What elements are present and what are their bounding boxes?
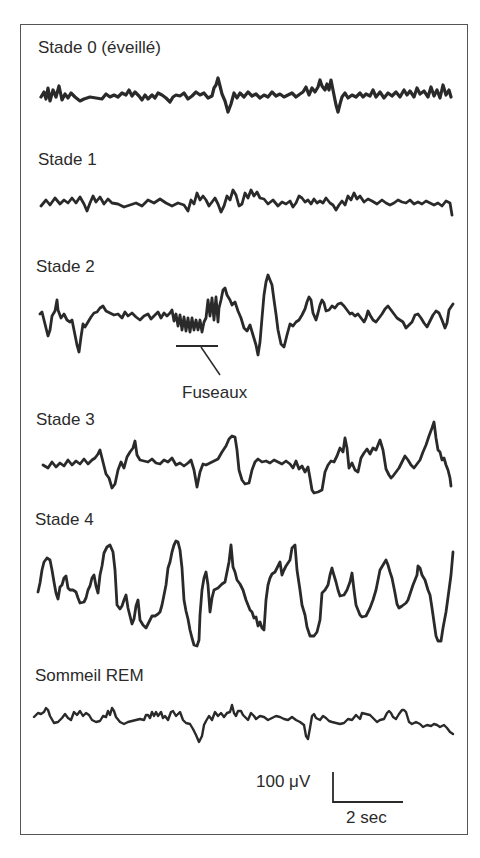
eeg-traces <box>0 0 480 858</box>
scale-bar <box>333 772 403 802</box>
stage1-trace <box>41 190 452 215</box>
rem-trace <box>34 705 453 742</box>
stage2-trace <box>40 275 453 355</box>
stage4-trace <box>38 541 453 646</box>
spindles-pointer-line <box>201 347 220 375</box>
stage0-trace <box>41 78 451 112</box>
stage3-trace <box>43 422 451 493</box>
